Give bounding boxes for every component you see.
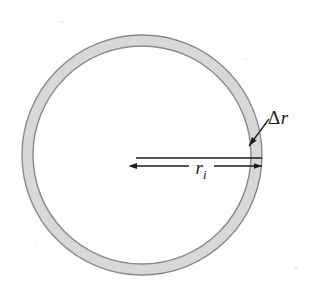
delta-r-variable: r xyxy=(281,107,289,128)
ring-inner-circle xyxy=(33,46,251,264)
annulus-ring xyxy=(22,35,262,275)
delta-symbol: Δ xyxy=(268,107,280,128)
scan-speckle xyxy=(61,21,63,23)
annulus-diagram-canvas: Δr ri xyxy=(0,0,316,289)
scan-speckle xyxy=(245,58,247,60)
scan-speckle xyxy=(36,245,38,247)
scan-speckle xyxy=(295,267,297,269)
annulus-figure: Δr ri xyxy=(0,0,316,289)
delta-r-label: Δr xyxy=(268,107,289,128)
inner-radius-subscript: i xyxy=(203,167,207,182)
